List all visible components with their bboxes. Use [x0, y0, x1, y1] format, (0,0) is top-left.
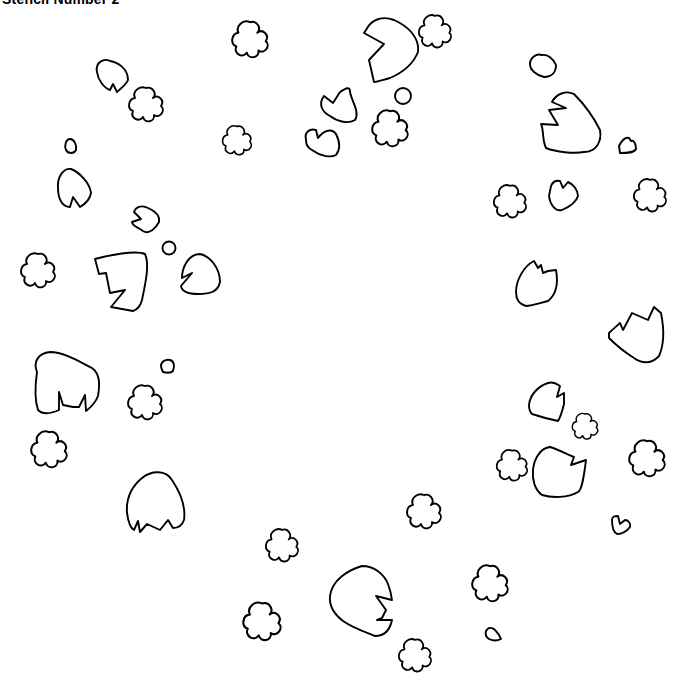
leaf-shape: [35, 352, 99, 413]
flower-shape: [634, 179, 666, 211]
leaf-shape: [609, 307, 663, 362]
leaf-shape: [127, 472, 185, 532]
flower-shape: [31, 431, 66, 467]
leaf-shape: [364, 18, 418, 82]
leaf-shape: [541, 92, 600, 152]
flower-shape: [407, 494, 441, 528]
flower-shape: [243, 603, 280, 640]
flower-shape: [572, 413, 597, 439]
flower-shape: [629, 440, 664, 476]
circle-shape: [163, 242, 176, 255]
leaf-shape: [321, 88, 357, 122]
blob-shape: [161, 360, 174, 373]
flower-shape: [21, 253, 55, 287]
blob-shape: [486, 628, 501, 641]
blob-shape: [530, 55, 556, 77]
flower-shape: [419, 15, 451, 47]
blob-shape: [619, 138, 636, 153]
leaf-shape: [306, 129, 339, 156]
leaf-shape: [95, 253, 147, 311]
flower-shape: [494, 185, 526, 217]
flower-shape: [266, 529, 298, 561]
flower-shape: [232, 21, 267, 57]
leaf-shape: [330, 566, 392, 636]
leaf-shape: [533, 447, 586, 497]
leaf-shape: [181, 254, 220, 294]
flower-shape: [223, 126, 252, 155]
leaf-shape: [97, 60, 128, 92]
circle-shape: [395, 88, 411, 104]
leaf-shape: [58, 169, 91, 207]
flower-shape: [128, 385, 162, 419]
leaf-shape: [549, 181, 578, 211]
leaf-shape: [529, 382, 564, 421]
leaf-shape: [132, 206, 159, 232]
flower-shape: [372, 110, 407, 146]
stencil-sheet: [0, 0, 687, 692]
flower-shape: [399, 639, 431, 671]
leaf-shape: [612, 516, 630, 534]
flower-shape: [472, 565, 507, 601]
blob-shape: [65, 139, 76, 153]
leaf-shape: [516, 261, 557, 306]
flower-shape: [129, 87, 163, 121]
flower-shape: [497, 450, 527, 481]
